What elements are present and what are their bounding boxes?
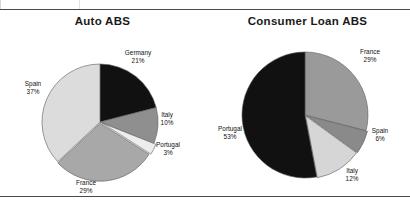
pie-label-consumer-portugal: Portugal 53%: [209, 125, 251, 141]
pie-label-auto-germany-name: Germany: [115, 49, 161, 57]
pie-label-auto-italy: Italy 10%: [152, 111, 182, 127]
pie-label-consumer-portugal-value: 53%: [209, 133, 251, 141]
pie-label-auto-france-name: France: [65, 179, 107, 187]
top-edge-artifact: [0, 0, 80, 9]
pie-label-consumer-italy-name: Italy: [337, 167, 367, 175]
pie-label-auto-france-value: 29%: [65, 187, 107, 195]
pie-label-auto-portugal-name: Portugal: [147, 141, 189, 149]
pie-label-consumer-france-name: France: [350, 48, 390, 56]
chart-title-consumer-loan-abs: Consumer Loan ABS: [205, 15, 410, 27]
pie-label-auto-spain-value: 37%: [16, 88, 50, 96]
chart-panel-auto-abs: Auto ABS Germany 21% Italy 10% Portugal …: [0, 10, 205, 198]
pie-label-auto-spain-name: Spain: [16, 80, 50, 88]
chart-panel-consumer-loan-abs: Consumer Loan ABS: [205, 10, 410, 198]
pie-label-auto-portugal: Portugal 3%: [147, 141, 189, 157]
pie-label-auto-germany: Germany 21%: [115, 49, 161, 65]
pie-label-auto-france: France 29%: [65, 179, 107, 195]
pie-label-consumer-portugal-name: Portugal: [209, 125, 251, 133]
pie-chart-auto-abs: [38, 60, 162, 184]
pie-label-auto-italy-name: Italy: [152, 111, 182, 119]
pie-label-consumer-spain-name: Spain: [363, 127, 397, 135]
chart-title-auto-abs: Auto ABS: [0, 15, 205, 27]
pie-chart-consumer-loan-abs-svg: [238, 48, 372, 182]
pie-label-auto-spain: Spain 37%: [16, 80, 50, 96]
pie-label-consumer-italy-value: 12%: [337, 175, 367, 183]
pie-label-consumer-spain: Spain 6%: [363, 127, 397, 143]
pie-label-consumer-france-value: 29%: [350, 56, 390, 64]
pie-chart-consumer-loan-abs: [238, 48, 372, 182]
figure-frame: Auto ABS Germany 21% Italy 10% Portugal …: [0, 9, 410, 197]
pie-label-consumer-spain-value: 6%: [363, 135, 397, 143]
pie-chart-auto-abs-svg: [38, 60, 162, 184]
pie-label-consumer-france: France 29%: [350, 48, 390, 64]
pie-label-auto-portugal-value: 3%: [147, 149, 189, 157]
pie-label-auto-italy-value: 10%: [152, 119, 182, 127]
pie-label-consumer-italy: Italy 12%: [337, 167, 367, 183]
pie-label-auto-germany-value: 21%: [115, 57, 161, 65]
